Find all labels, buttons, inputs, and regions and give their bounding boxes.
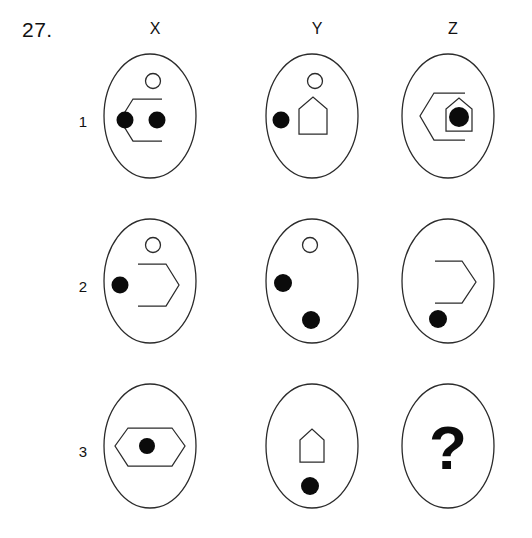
filled-dot-center <box>449 107 469 127</box>
row-label-1: 1 <box>72 113 94 130</box>
row-label-3: 3 <box>72 443 94 460</box>
filled-dot-lower-center <box>302 311 320 329</box>
cell-z2[interactable] <box>398 217 498 345</box>
filled-dot-lower-left <box>429 310 447 328</box>
cell-x3[interactable] <box>100 382 200 510</box>
filled-dot-center <box>139 438 155 454</box>
puzzle-matrix: 27. X Y Z 1 2 3 <box>0 0 532 538</box>
column-header-x: X <box>135 20 175 38</box>
filled-dot-upper-left <box>274 274 292 292</box>
column-header-y: Y <box>297 20 337 38</box>
cell-outline-ellipse <box>402 54 494 178</box>
filled-dot-below <box>301 477 319 495</box>
cell-x1[interactable] <box>100 52 200 180</box>
open-circle-marker <box>146 238 161 253</box>
cell-outline-ellipse <box>402 219 494 343</box>
open-circle-marker <box>303 238 318 253</box>
filled-dot-left <box>273 112 290 129</box>
open-circle-marker <box>308 74 323 89</box>
cell-z1[interactable] <box>398 52 498 180</box>
column-header-z: Z <box>433 20 473 38</box>
cell-z3-answer[interactable]: ? <box>398 382 498 510</box>
cell-y2[interactable] <box>262 217 362 345</box>
cell-x2[interactable] <box>100 217 200 345</box>
open-circle-marker <box>146 74 161 89</box>
filled-dot-right <box>149 112 166 129</box>
question-mark: ? <box>429 413 467 482</box>
cell-y1[interactable] <box>262 52 362 180</box>
filled-dot-left <box>117 112 134 129</box>
filled-dot-left <box>112 277 129 294</box>
row-label-2: 2 <box>72 278 94 295</box>
cell-y3[interactable] <box>262 382 362 510</box>
question-number: 27. <box>22 18 53 42</box>
